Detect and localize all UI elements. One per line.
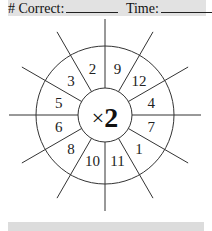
wheel-number: 5 (55, 95, 63, 111)
multiplication-wheel: 912471111086532 ×2 (0, 0, 212, 231)
wheel-number: 10 (85, 153, 100, 169)
footer-band (8, 222, 204, 231)
wheel-number: 7 (148, 119, 156, 135)
wheel-number: 6 (55, 119, 63, 135)
wheel-number: 12 (131, 73, 146, 89)
wheel-number: 11 (110, 153, 124, 169)
wheel-number: 4 (148, 95, 156, 111)
wheel-number: 8 (67, 141, 75, 157)
wheel-number: 1 (135, 141, 143, 157)
wheel-number: 3 (67, 73, 75, 89)
wheel-number: 9 (114, 61, 122, 77)
center-multiplier: ×2 (92, 102, 118, 133)
wheel-number: 2 (89, 61, 97, 77)
